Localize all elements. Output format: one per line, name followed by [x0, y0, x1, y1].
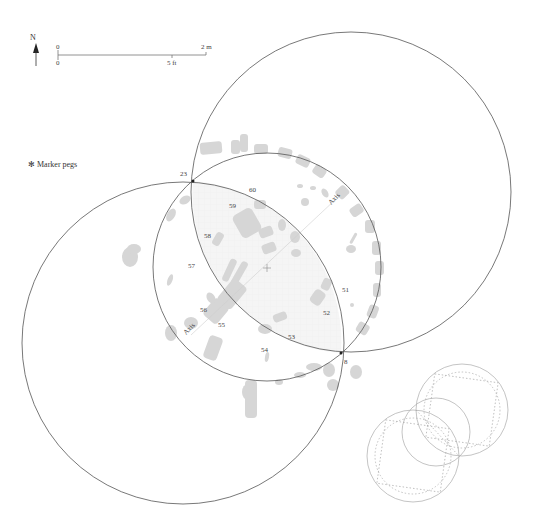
legend: ✻ Marker pegs: [28, 160, 77, 169]
stone-label-51: 51: [342, 286, 350, 294]
north-arrow: N: [30, 33, 39, 66]
stone-label-53: 53: [288, 333, 296, 341]
stone-label-58: 58: [204, 232, 212, 240]
stone-label-60: 60: [249, 186, 257, 194]
scale-top-start: 0: [56, 43, 60, 51]
stone-label-56: 56: [200, 306, 208, 314]
scale-bar: 0 2 m 0 5 ft: [56, 43, 212, 67]
scale-bottom-mid: 5 ft: [167, 59, 177, 67]
marker-peg-8: [340, 352, 343, 355]
stone-label-57: 57: [188, 262, 196, 270]
legend-label: Marker pegs: [37, 160, 77, 169]
scale-top-end: 2 m: [201, 43, 212, 51]
stone-label-54: 54: [261, 346, 269, 354]
vesica-diagram: N 0 2 m 0 5 ft ✻ Marker pegs: [0, 0, 535, 532]
stone-label-59: 59: [229, 202, 237, 210]
peg-label-23: 23: [180, 170, 188, 178]
stone-label-52: 52: [323, 309, 331, 317]
peg-label-8: 8: [344, 358, 348, 366]
inset-geometry: [367, 364, 508, 502]
marker-peg-icon: ✻: [28, 160, 35, 169]
stone-label-55: 55: [218, 321, 226, 329]
scale-bottom-start: 0: [56, 59, 60, 67]
marker-peg-23: [192, 180, 195, 183]
north-label: N: [30, 33, 36, 42]
